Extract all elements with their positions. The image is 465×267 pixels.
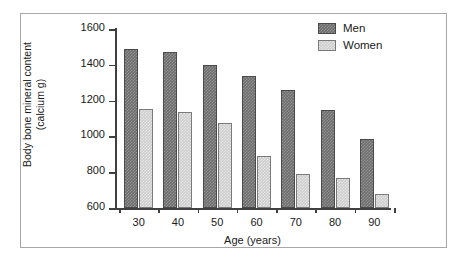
- legend-label-men: Men: [343, 22, 365, 34]
- x-tick-40: [158, 208, 160, 213]
- y-tick-1400: 1400: [109, 65, 115, 67]
- x-tick-60: [237, 208, 239, 213]
- x-tick-end: [394, 208, 396, 213]
- x-tick-50: [198, 208, 200, 213]
- bar-men-70: [281, 90, 295, 208]
- x-tick-label-70: 70: [290, 216, 302, 228]
- x-tick-label-50: 50: [211, 216, 223, 228]
- x-tick-label-40: 40: [172, 216, 184, 228]
- bar-women-90: [375, 194, 389, 208]
- bar-women-30: [139, 109, 153, 208]
- x-tick-80: [315, 208, 317, 213]
- y-tick-label-1000: 1000: [81, 128, 105, 140]
- bar-women-60: [257, 156, 271, 208]
- y-tick-label-1400: 1400: [81, 57, 105, 69]
- y-tick-1200: 1200: [109, 101, 115, 103]
- x-tick-label-60: 60: [250, 216, 262, 228]
- bar-men-40: [163, 52, 177, 208]
- y-axis-title: Body bone mineral content (calcium g): [21, 10, 46, 200]
- y-tick-label-1200: 1200: [81, 93, 105, 105]
- bar-men-30: [124, 49, 138, 208]
- bar-men-50: [203, 65, 217, 208]
- x-tick-70: [276, 208, 278, 213]
- x-axis-title: Age (years): [115, 234, 390, 246]
- y-tick-label-800: 800: [87, 164, 105, 176]
- bar-women-80: [336, 178, 350, 208]
- bar-women-50: [218, 123, 232, 208]
- legend-label-women: Women: [343, 39, 382, 51]
- chart-figure: Body bone mineral content (calcium g) 60…: [0, 0, 465, 267]
- bar-men-90: [360, 139, 374, 208]
- y-tick-label-600: 600: [87, 200, 105, 212]
- y-tick-1600: 1600: [109, 29, 115, 31]
- legend-swatch-men: [318, 23, 336, 34]
- x-tick-30: [119, 208, 121, 213]
- bar-women-40: [178, 112, 192, 208]
- legend-item-women: Women: [318, 39, 382, 51]
- x-tick-label-80: 80: [329, 216, 341, 228]
- y-tick-600: 600: [109, 208, 115, 210]
- x-tick-label-90: 90: [368, 216, 380, 228]
- legend-item-men: Men: [318, 22, 382, 34]
- y-tick-800: 800: [109, 172, 115, 174]
- bar-men-60: [242, 76, 256, 208]
- x-tick-90: [355, 208, 357, 213]
- y-tick-label-1600: 1600: [81, 21, 105, 33]
- legend-swatch-women: [318, 40, 336, 51]
- y-tick-1000: 1000: [109, 136, 115, 138]
- x-tick-label-30: 30: [133, 216, 145, 228]
- x-axis-line: [115, 208, 391, 210]
- chart-legend: Men Women: [318, 22, 382, 56]
- y-axis-line: [115, 28, 117, 209]
- bar-women-70: [296, 174, 310, 208]
- bar-men-80: [321, 110, 335, 208]
